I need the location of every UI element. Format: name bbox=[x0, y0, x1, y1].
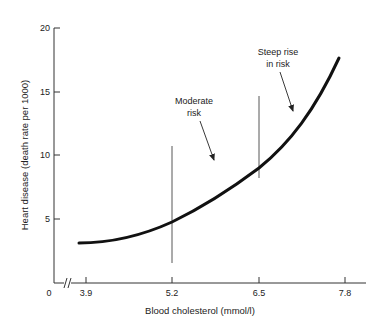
svg-text:in risk: in risk bbox=[266, 59, 290, 69]
x-tick-6-5: 6.5 bbox=[253, 288, 266, 298]
arrow-icon bbox=[200, 121, 214, 160]
y-tick-20: 20 bbox=[40, 23, 50, 33]
x-axis-label: Blood cholesterol (mmol/l) bbox=[145, 305, 255, 316]
x-axis: 0 3.9 5.2 6.5 7.8 Blood cholesterol (mmo… bbox=[46, 277, 366, 316]
arrow-icon bbox=[280, 72, 293, 111]
annotation-steep-rise: Steep rise in risk bbox=[258, 47, 299, 111]
y-axis: 20 15 10 5 Heart disease (death rate per… bbox=[19, 23, 60, 283]
y-axis-label: Heart disease (death rate per 1000) bbox=[19, 80, 30, 231]
axis-break-icon bbox=[64, 278, 71, 288]
y-tick-15: 15 bbox=[40, 87, 50, 97]
y-tick-10: 10 bbox=[40, 150, 50, 160]
y-tick-5: 5 bbox=[45, 214, 50, 224]
chart: 20 15 10 5 Heart disease (death rate per… bbox=[0, 0, 384, 325]
svg-text:Moderate: Moderate bbox=[175, 96, 213, 106]
svg-text:Steep rise: Steep rise bbox=[258, 47, 299, 57]
annotation-moderate-risk: Moderate risk bbox=[175, 96, 214, 160]
svg-text:risk: risk bbox=[187, 108, 201, 118]
risk-curve bbox=[79, 58, 339, 243]
origin-label: 0 bbox=[46, 288, 51, 298]
x-tick-3-9: 3.9 bbox=[80, 288, 93, 298]
x-tick-5-2: 5.2 bbox=[166, 288, 179, 298]
x-tick-7-8: 7.8 bbox=[339, 288, 352, 298]
